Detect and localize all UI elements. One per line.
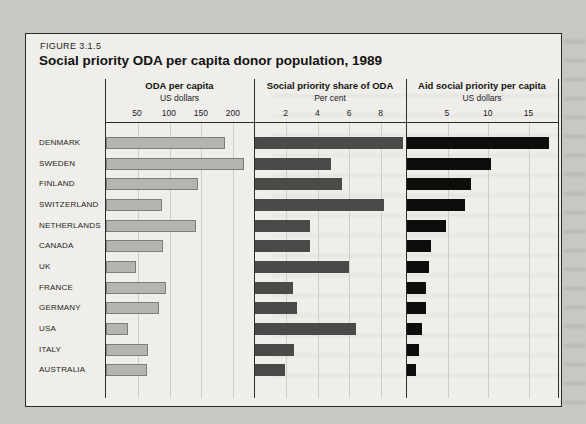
bar-germany	[407, 302, 426, 314]
country-label: CANADA	[39, 239, 74, 253]
country-label: USA	[39, 322, 56, 336]
bar-italy	[407, 344, 419, 356]
panel3-tick-row: 51015	[406, 108, 558, 120]
page-bleed-through-artifact	[564, 40, 586, 414]
bar-usa	[255, 323, 356, 335]
axis-tick-label: 8	[378, 108, 383, 118]
bar-usa	[407, 323, 422, 335]
bar-canada	[407, 240, 431, 252]
bar-switzerland	[106, 199, 162, 211]
country-label: SWEDEN	[39, 157, 75, 171]
bar-uk	[255, 261, 349, 273]
bar-sweden	[255, 158, 331, 170]
gridline	[529, 123, 530, 398]
bar-switzerland	[255, 199, 384, 211]
axis-line-right	[558, 79, 559, 398]
country-label: NETHERLANDS	[39, 219, 101, 233]
bar-netherlands	[407, 220, 446, 232]
figure-box: FIGURE 3.1.5 Social priority ODA per cap…	[25, 33, 562, 407]
bar-sweden	[407, 158, 491, 170]
bar-uk	[407, 261, 429, 273]
bar-france	[407, 282, 426, 294]
bar-denmark	[255, 137, 403, 149]
bar-usa	[106, 323, 128, 335]
bar-netherlands	[255, 220, 310, 232]
bar-switzerland	[407, 199, 465, 211]
bar-uk	[106, 261, 136, 273]
axis-tick-label: 4	[315, 108, 320, 118]
panel3-unit: US dollars	[406, 93, 558, 104]
axis-tick-label: 15	[524, 108, 533, 118]
bar-italy	[106, 344, 148, 356]
panel2-unit: Per cent	[254, 93, 406, 104]
panel3-plot	[407, 123, 558, 398]
bar-sweden	[106, 158, 244, 170]
panel2-title: Social priority share of ODA	[254, 80, 406, 92]
bar-denmark	[407, 137, 549, 149]
bar-australia	[407, 364, 416, 376]
gridline	[381, 123, 382, 398]
panel1-title: ODA per capita	[105, 80, 254, 92]
country-labels: DENMARKSWEDENFINLANDSWITZERLANDNETHERLAN…	[39, 123, 103, 398]
country-label: GERMANY	[39, 301, 81, 315]
axis-tick-label: 10	[483, 108, 492, 118]
bar-finland	[255, 178, 342, 190]
country-label: FINLAND	[39, 177, 75, 191]
axis-tick-label: 2	[283, 108, 288, 118]
bar-chart: ODA per capita US dollars Social priorit…	[26, 34, 561, 406]
bar-australia	[106, 364, 147, 376]
axis-tick-label: 5	[444, 108, 449, 118]
gridline	[349, 123, 350, 398]
bar-germany	[106, 302, 159, 314]
bar-france	[106, 282, 166, 294]
country-label: ITALY	[39, 343, 61, 357]
bar-germany	[255, 302, 297, 314]
country-label: SWITZERLAND	[39, 198, 99, 212]
axis-tick-label: 100	[162, 108, 176, 118]
bar-canada	[106, 240, 163, 252]
country-label: FRANCE	[39, 281, 73, 295]
axis-tick-label: 6	[347, 108, 352, 118]
panel1-unit: US dollars	[105, 93, 254, 104]
panel2-tick-row: 2468	[254, 108, 406, 120]
bar-france	[255, 282, 293, 294]
bar-italy	[255, 344, 294, 356]
country-label: AUSTRALIA	[39, 363, 85, 377]
panel3-title: Aid social priority per capita	[406, 80, 558, 92]
bar-finland	[407, 178, 471, 190]
bar-netherlands	[106, 220, 196, 232]
bar-canada	[255, 240, 310, 252]
country-label: DENMARK	[39, 136, 80, 150]
panel2-plot	[255, 123, 406, 398]
country-label: UK	[39, 260, 51, 274]
bar-denmark	[106, 137, 225, 149]
scanned-page: { "figure": { "label": "FIGURE 3.1.5", "…	[0, 0, 586, 424]
axis-tick-label: 150	[194, 108, 208, 118]
bar-australia	[255, 364, 285, 376]
panel1-plot	[106, 123, 254, 398]
axis-tick-label: 50	[132, 108, 141, 118]
bar-finland	[106, 178, 198, 190]
panel1-tick-row: 50100150200	[105, 108, 254, 120]
axis-tick-label: 200	[226, 108, 240, 118]
